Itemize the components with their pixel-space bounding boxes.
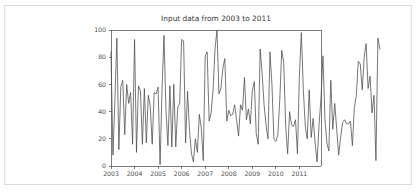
axes xyxy=(111,30,321,166)
x-tick-label: 2007 xyxy=(197,170,213,177)
x-tick-label: 2003 xyxy=(103,170,119,177)
x-tick-label: 2010 xyxy=(268,170,284,177)
data-series-line xyxy=(111,30,380,165)
y-tick-label: 0 xyxy=(102,162,106,169)
y-axis-ticks: 020406080100 xyxy=(94,26,111,169)
figure-card: Input data from 2003 to 2011 02040608010… xyxy=(4,5,412,185)
y-tick-label: 80 xyxy=(98,53,106,60)
y-tick-label: 40 xyxy=(98,108,106,115)
chart-title: Input data from 2003 to 2011 xyxy=(161,14,271,23)
chart-canvas: Input data from 2003 to 2011 02040608010… xyxy=(5,6,413,186)
screenshot-root: Input data from 2003 to 2011 02040608010… xyxy=(0,0,418,196)
y-tick-label: 60 xyxy=(98,81,106,88)
x-tick-label: 2009 xyxy=(244,170,260,177)
x-tick-label: 2005 xyxy=(150,170,166,177)
axis-frame xyxy=(111,30,321,166)
x-tick-label: 2006 xyxy=(174,170,190,177)
x-axis-ticks: 200320042005200620072008200920102011 xyxy=(103,166,307,177)
x-tick-label: 2004 xyxy=(127,170,143,177)
y-tick-label: 100 xyxy=(94,26,106,33)
y-tick-label: 20 xyxy=(98,135,106,142)
time-series-chart: Input data from 2003 to 2011 02040608010… xyxy=(5,6,413,186)
x-tick-label: 2011 xyxy=(292,170,308,177)
x-tick-label: 2008 xyxy=(221,170,237,177)
